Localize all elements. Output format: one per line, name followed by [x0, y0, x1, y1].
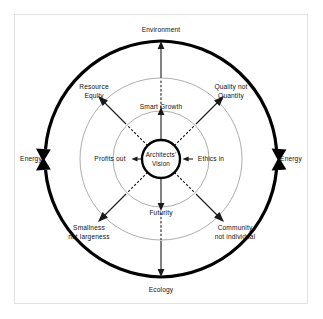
- diagonal-dotted-nw: [128, 126, 148, 146]
- label-ethics-in: Ethics in: [198, 155, 224, 162]
- diagonal-line-community: [196, 194, 220, 218]
- core-circle-architects-vision: [142, 140, 180, 178]
- label-smallness-line1: Smallness: [73, 224, 105, 231]
- label-quality-not-quantity-line1: Quality not: [214, 83, 247, 91]
- label-ecology: Ecology: [149, 286, 174, 294]
- diagonal-dotted-ne: [175, 126, 195, 146]
- diagonal-line-resource-equity: [102, 100, 126, 124]
- label-energy-right: Energy: [280, 155, 302, 163]
- label-quality-not-quantity-line2: Quantity: [218, 92, 244, 100]
- axis-arrowhead-ethics-in: [183, 157, 189, 162]
- label-energy-left: Energy: [20, 155, 42, 163]
- label-smallness-line2: not largeness: [68, 233, 110, 241]
- diagonal-line-smallness: [102, 194, 126, 218]
- label-community-line2: not individual: [215, 233, 256, 240]
- label-futurity: Futurity: [149, 209, 173, 217]
- label-community-line1: Community: [218, 224, 253, 232]
- center-label-line2: Vision: [152, 160, 170, 167]
- label-resource-equity-line1: Resource: [79, 83, 109, 90]
- diagonal-dotted-se: [175, 173, 195, 193]
- label-profits-out: Profits out: [94, 155, 125, 162]
- center-label-line1: Architects': [146, 151, 177, 158]
- diagonal-line-quality-not-quantity: [196, 100, 220, 124]
- label-environment: Environment: [142, 26, 181, 33]
- axis-arrowhead-profits-out: [132, 157, 138, 162]
- label-resource-equity-line2: Equity: [84, 92, 104, 100]
- diagonal-dotted-sw: [128, 173, 148, 193]
- diagram-canvas: Architects' Vision Environment Ecology E…: [0, 0, 323, 319]
- concentric-sustainability-diagram: Architects' Vision Environment Ecology E…: [0, 0, 323, 319]
- label-smart-growth: Smart Growth: [140, 103, 183, 110]
